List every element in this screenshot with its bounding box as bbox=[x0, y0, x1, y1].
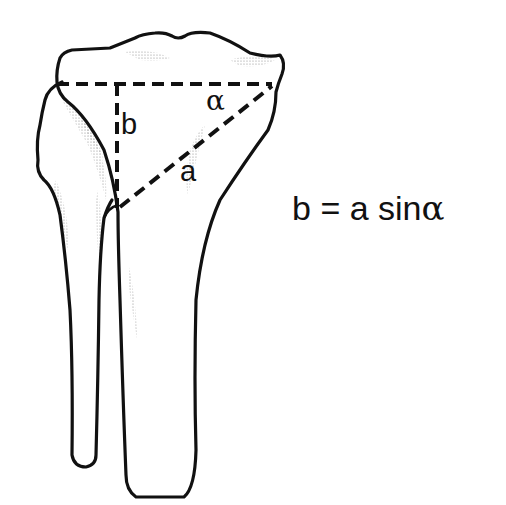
formula-lhs: b bbox=[292, 189, 311, 227]
label-alpha: α bbox=[206, 87, 225, 115]
bone-shading bbox=[52, 51, 275, 345]
hypotenuse-dashed-line-a bbox=[120, 86, 272, 207]
fibula-outline bbox=[37, 82, 112, 467]
formula: b = a sinα bbox=[292, 188, 445, 228]
tibia-outline bbox=[57, 32, 284, 497]
formula-rhs-a: a bbox=[350, 189, 369, 227]
formula-equals: = bbox=[320, 189, 340, 227]
formula-alpha: α bbox=[422, 188, 445, 228]
formula-sin: sin bbox=[378, 189, 421, 227]
tibia-fibula-diagram bbox=[0, 0, 506, 505]
label-b: b bbox=[121, 110, 137, 139]
label-a: a bbox=[180, 157, 196, 186]
